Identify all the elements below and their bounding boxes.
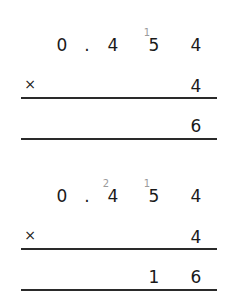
- decimal-point: .: [77, 35, 97, 55]
- multiplicand-digit: 4: [103, 35, 123, 55]
- multiplicand-digit: 5: [144, 35, 164, 55]
- result-rule: [21, 289, 217, 291]
- multiplicand-digit: 0: [52, 186, 72, 206]
- result-digit: 6: [186, 116, 206, 136]
- result-digit: 6: [186, 267, 206, 287]
- multiplication-step-1: 0 . 4 1 5 4 × 4 6: [0, 0, 248, 146]
- result-digit: 1: [144, 267, 164, 287]
- multiplication-step-2: 0 . 2 4 1 5 4 × 4 1 6: [0, 151, 248, 293]
- multiplicand-digit: 4: [186, 35, 206, 55]
- operand-rule: [21, 97, 217, 99]
- multiply-operator: ×: [23, 76, 37, 92]
- multiplier-digit: 4: [186, 227, 206, 247]
- multiplicand-digit: 5: [144, 186, 164, 206]
- decimal-point: .: [77, 186, 97, 206]
- multiplier-digit: 4: [186, 76, 206, 96]
- multiplicand-digit: 4: [103, 186, 123, 206]
- multiply-operator: ×: [23, 227, 37, 243]
- result-rule: [21, 138, 217, 140]
- multiplicand-digit: 0: [52, 35, 72, 55]
- multiplicand-digit: 4: [186, 186, 206, 206]
- operand-rule: [21, 248, 217, 250]
